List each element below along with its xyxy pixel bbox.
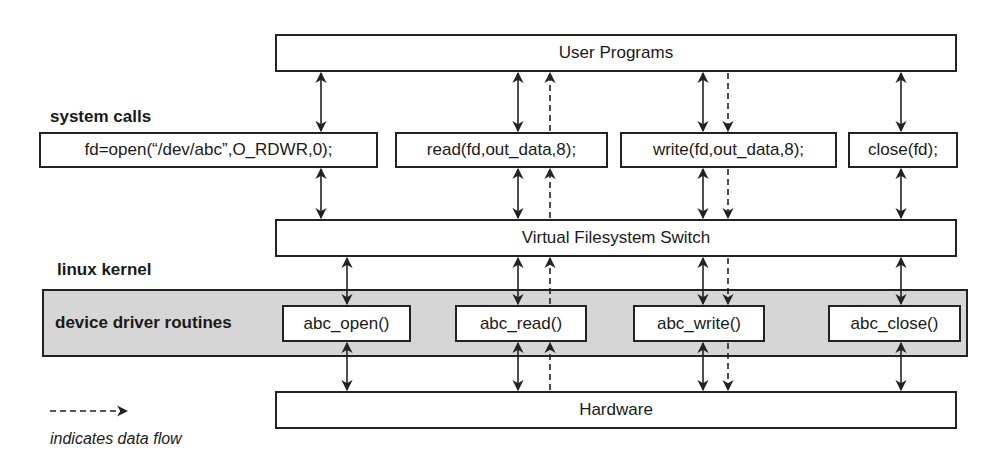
arrows-layer (0, 0, 995, 463)
legend-label: indicates data flow (50, 430, 182, 448)
